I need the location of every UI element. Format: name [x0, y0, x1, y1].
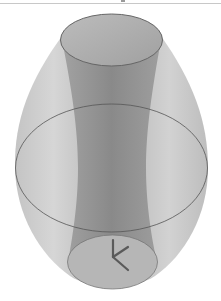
top-cap — [61, 14, 163, 66]
3d-viewport[interactable] — [0, 0, 221, 301]
